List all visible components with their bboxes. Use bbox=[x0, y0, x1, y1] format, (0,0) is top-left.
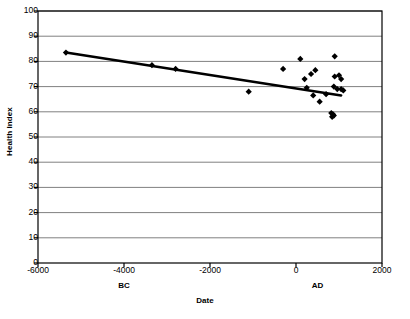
era-label: BC bbox=[104, 281, 144, 290]
chart-container: Health Index 0102030405060708090100 -600… bbox=[0, 0, 410, 319]
data-points bbox=[63, 49, 347, 119]
x-axis-title: Date bbox=[0, 296, 410, 305]
x-tick-label: 2000 bbox=[359, 266, 405, 275]
data-point-marker bbox=[63, 49, 69, 55]
data-point-marker bbox=[302, 76, 308, 82]
x-tick-label: -6000 bbox=[15, 266, 61, 275]
data-point-marker bbox=[317, 99, 323, 105]
data-point-marker bbox=[310, 92, 316, 98]
x-tick-label: -2000 bbox=[187, 266, 233, 275]
x-tick-label: -4000 bbox=[101, 266, 147, 275]
data-point-marker bbox=[280, 66, 286, 72]
era-label: AD bbox=[298, 281, 338, 290]
gridlines bbox=[38, 11, 382, 238]
data-point-marker bbox=[312, 67, 318, 73]
data-point-marker bbox=[246, 89, 252, 95]
data-point-marker bbox=[332, 53, 338, 59]
data-point-marker bbox=[308, 71, 314, 77]
x-axis-title-text: Date bbox=[196, 296, 213, 305]
x-tick-label: 0 bbox=[273, 266, 319, 275]
